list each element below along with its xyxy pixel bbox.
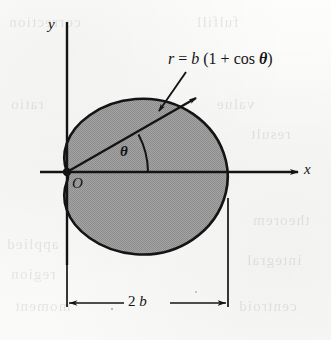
theta-angle-label: θ: [120, 143, 128, 160]
origin-label: O: [72, 175, 83, 192]
dimension-label: 2 b: [128, 293, 147, 310]
cardioid-figure-svg: [0, 0, 331, 340]
y-axis-label: y: [48, 16, 55, 33]
equation-equals: =: [178, 50, 187, 67]
equation-cos: cos: [234, 50, 255, 67]
equation-close-paren: ): [267, 50, 272, 67]
cardioid-outline: [64, 99, 227, 255]
scan-speck: [195, 291, 197, 293]
curve-equation-label: r = b (1 + cos θ): [168, 50, 273, 68]
figure-container: correction fulfill ratio value result th…: [0, 0, 331, 340]
dimension-unit: b: [139, 293, 147, 309]
scan-speck: [111, 308, 113, 310]
x-axis-label: x: [304, 161, 311, 178]
dimension-value: 2: [128, 293, 136, 309]
cardioid-region: [64, 99, 227, 255]
equation-open-paren: (1 +: [203, 50, 229, 67]
